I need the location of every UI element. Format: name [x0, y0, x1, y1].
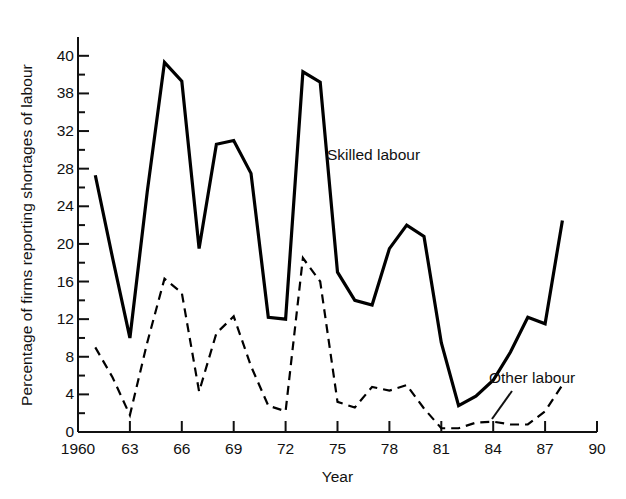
x-axis-tick-label: 69 — [225, 441, 242, 457]
y-axis-tick-label: 38 — [40, 85, 74, 101]
annotation-leader-lines — [492, 391, 512, 419]
x-axis-tick-label: 1960 — [61, 441, 95, 457]
other-labour-leader-line — [492, 391, 512, 419]
series-line-skilled-labour — [95, 62, 562, 405]
y-axis-tick-label: 40 — [40, 48, 74, 64]
x-axis-tick-label: 78 — [381, 441, 398, 457]
plot-canvas — [0, 0, 626, 499]
x-axis-tick-labels: 196063666972757881848790 — [0, 437, 626, 457]
y-axis-tick-label: 16 — [40, 274, 74, 290]
series-label-skilled-labour: Skilled labour — [327, 146, 420, 164]
y-axis-tick-label: 24 — [40, 198, 74, 214]
x-axis-ticks — [78, 421, 597, 432]
y-axis-tick-label: 4 — [40, 386, 74, 402]
series-line-other-labour — [95, 258, 562, 428]
y-axis-ticks — [78, 56, 89, 432]
series-label-other-labour: Other labour — [489, 369, 575, 387]
y-axis-tick-label: 32 — [40, 123, 74, 139]
x-axis-tick-label: 81 — [433, 441, 450, 457]
x-axis-title: Year — [78, 468, 597, 486]
x-axis-tick-label: 72 — [277, 441, 294, 457]
x-axis-tick-label: 87 — [536, 441, 553, 457]
x-axis-tick-label: 66 — [173, 441, 190, 457]
x-axis-tick-label: 84 — [485, 441, 502, 457]
y-axis-tick-labels: 0481216202428323840 — [34, 0, 74, 499]
y-axis-tick-label: 20 — [40, 236, 74, 252]
x-axis-tick-label: 63 — [121, 441, 138, 457]
chart-figure: Percentage of firms reporting shortages … — [0, 0, 626, 499]
y-axis-tick-label: 12 — [40, 311, 74, 327]
y-axis-tick-label: 8 — [40, 349, 74, 365]
x-axis-tick-label: 75 — [329, 441, 346, 457]
x-axis-tick-label: 90 — [588, 441, 605, 457]
y-axis-tick-label: 28 — [40, 161, 74, 177]
